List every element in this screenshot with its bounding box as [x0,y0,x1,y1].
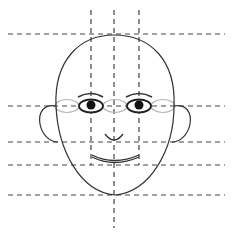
diagram-svg [0,0,235,233]
right-eye [127,100,151,113]
head-outline [56,35,174,195]
left-eye [79,100,103,113]
right-ear [172,106,190,142]
oval-between-eyes [103,100,127,113]
left-ear [40,106,58,142]
face-proportion-diagram [0,0,235,233]
left-pupil [87,101,96,110]
right-pupil [135,101,144,110]
